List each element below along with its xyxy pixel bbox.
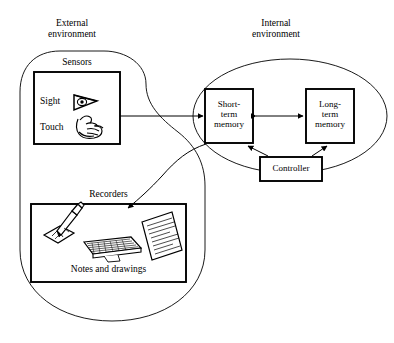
- sensors-label: Sensors: [34, 57, 120, 68]
- sensor-item-label-sight: Sight: [40, 96, 80, 107]
- recorders-label: Recorders: [31, 189, 186, 200]
- diagram-graphics: [0, 0, 394, 343]
- arrow-controller-to-short-term-memory: [248, 146, 268, 156]
- internal-environment-title: Internal environment: [228, 18, 324, 40]
- external-environment-title: External environment: [24, 18, 120, 40]
- sensor-item-label-touch: Touch: [40, 122, 80, 133]
- diagram-canvas: External environment Internal environmen…: [0, 0, 394, 343]
- short-term-memory-label: Short- term memory: [205, 99, 253, 129]
- controller-label: Controller: [260, 163, 322, 173]
- long-term-memory-label: Long- term memory: [306, 99, 354, 129]
- arrow-controller-to-long-term-memory: [312, 146, 327, 156]
- recorders-caption: Notes and drawings: [31, 264, 186, 275]
